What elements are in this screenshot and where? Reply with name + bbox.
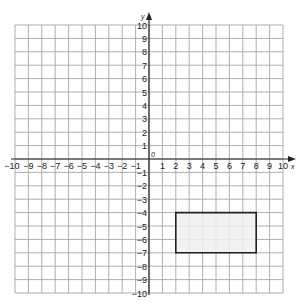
y-axis-label: y [140, 13, 145, 21]
y-tick-label: 3 [142, 114, 147, 124]
y-axis-arrow-icon [146, 12, 152, 20]
x-tick-label: −5 [77, 161, 87, 171]
x-tick-label: −2 [117, 161, 127, 171]
y-tick-label: −3 [137, 195, 147, 205]
y-tick-label: −2 [137, 181, 147, 191]
y-tick-label: −7 [137, 248, 147, 258]
y-tick-label: −4 [137, 208, 147, 218]
x-tick-label: −4 [90, 161, 100, 171]
y-tick-label: −6 [137, 235, 147, 245]
y-tick-label: 4 [142, 101, 147, 111]
x-tick-label: −9 [23, 161, 33, 171]
coordinate-grid: −10−9−8−7−6−5−4−3−2−112345678910−10−9−8−… [0, 0, 300, 307]
x-tick-label: 4 [200, 161, 205, 171]
x-tick-label: 5 [213, 161, 218, 171]
y-tick-label: −8 [137, 262, 147, 272]
x-axis-arrow-icon [288, 156, 296, 162]
y-tick-label: 9 [142, 34, 147, 44]
y-tick-label: −1 [137, 168, 147, 178]
x-tick-label: −8 [37, 161, 47, 171]
x-tick-label: −7 [50, 161, 60, 171]
x-tick-label: 10 [278, 161, 288, 171]
tick-labels: −10−9−8−7−6−5−4−3−2−112345678910−10−9−8−… [4, 13, 295, 299]
y-tick-label: 2 [142, 128, 147, 138]
y-tick-label: 6 [142, 74, 147, 84]
x-axis-label: x [290, 163, 295, 170]
shapes-layer [176, 213, 256, 253]
y-tick-label: −10 [132, 289, 147, 299]
x-tick-label: 3 [187, 161, 192, 171]
y-tick-label: −5 [137, 222, 147, 232]
y-tick-label: −9 [137, 275, 147, 285]
y-tick-label: 7 [142, 61, 147, 71]
x-tick-label: 6 [227, 161, 232, 171]
origin-label: 0 [151, 151, 155, 158]
x-tick-label: −6 [63, 161, 73, 171]
x-tick-label: −3 [104, 161, 114, 171]
y-tick-label: 8 [142, 47, 147, 57]
rectangle-shape [176, 213, 256, 253]
x-tick-label: 7 [240, 161, 245, 171]
x-tick-label: 8 [254, 161, 259, 171]
x-tick-label: 9 [267, 161, 272, 171]
y-tick-label: 10 [137, 21, 147, 31]
x-tick-label: 1 [160, 161, 165, 171]
y-tick-label: 1 [142, 141, 147, 151]
x-tick-label: −10 [4, 161, 19, 171]
x-tick-label: 2 [173, 161, 178, 171]
y-tick-label: 5 [142, 88, 147, 98]
